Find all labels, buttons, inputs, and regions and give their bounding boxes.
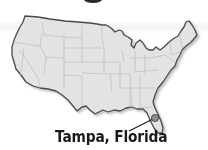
marker-label: Tampa, Florida xyxy=(55,128,167,146)
location-dot-icon[interactable] xyxy=(151,114,158,121)
us-outline xyxy=(12,16,197,133)
